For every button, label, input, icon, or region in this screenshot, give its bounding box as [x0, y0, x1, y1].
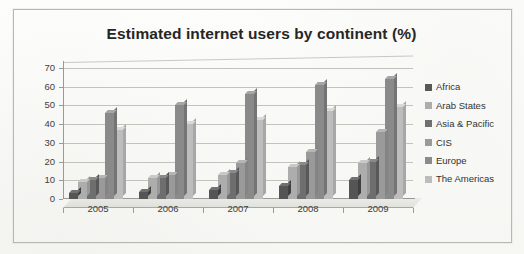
x-axis-tick-label: 2006	[148, 203, 188, 214]
y-axis-tick-label: 10	[31, 175, 55, 185]
y-axis-tick-label: 0	[31, 194, 55, 204]
scanned-chart-page: Estimated internet users by continent (%…	[0, 0, 524, 254]
x-axis-tick-mark	[203, 208, 204, 213]
bar-africa-2008	[279, 186, 288, 199]
bar-group-2008	[279, 68, 333, 199]
bar-side-face	[385, 126, 388, 196]
legend-label: The Americas	[436, 174, 494, 184]
legend-label: Africa	[436, 82, 460, 92]
bar-side-face	[306, 159, 309, 196]
bar-face	[139, 192, 148, 199]
y-axis-tick-label: 70	[31, 63, 55, 73]
legend-label: Asia & Pacific	[436, 119, 494, 129]
chart-legend: AfricaArab StatesAsia & PacificCISEurope…	[425, 78, 510, 188]
chart-title: Estimated internet users by continent (%…	[13, 25, 510, 43]
y-axis-tick-label: 50	[31, 100, 55, 110]
bar-side-face	[376, 156, 379, 196]
bar-side-face	[333, 105, 336, 196]
y-axis-line	[63, 61, 64, 199]
bar-face	[69, 193, 78, 199]
bar-side-face	[123, 124, 126, 196]
bar-side-face	[114, 107, 117, 196]
bar-group-2007	[209, 68, 263, 199]
bar-group-2005	[69, 68, 123, 199]
bar-side-face	[184, 99, 187, 196]
x-axis-tick-mark	[343, 208, 344, 213]
legend-item-europe[interactable]: Europe	[425, 152, 510, 170]
bar-side-face	[315, 146, 318, 196]
x-axis-tick-mark	[63, 208, 64, 213]
x-axis-tick-label: 2007	[218, 203, 258, 214]
legend-label: Arab States	[436, 101, 486, 111]
legend-label: CIS	[436, 138, 452, 148]
legend-swatch-icon	[425, 120, 432, 127]
y-axis-tick-label: 20	[31, 157, 55, 167]
bar-side-face	[193, 118, 196, 196]
bar-side-face	[367, 157, 370, 196]
legend-item-cis[interactable]: CIS	[425, 133, 510, 151]
x-axis-tick-mark	[133, 208, 134, 213]
bar-africa-2006	[139, 192, 148, 199]
legend-label: Europe	[436, 156, 467, 166]
legend-swatch-icon	[425, 157, 432, 164]
x-axis-tick-mark	[413, 208, 414, 213]
x-axis-tick-label: 2008	[288, 203, 328, 214]
legend-item-africa[interactable]: Africa	[425, 78, 510, 96]
bar-africa-2005	[69, 193, 78, 199]
legend-item-the-americas[interactable]: The Americas	[425, 170, 510, 188]
bar-africa-2009	[349, 180, 358, 199]
legend-item-arab-states[interactable]: Arab States	[425, 96, 510, 114]
bar-side-face	[254, 88, 257, 196]
y-axis-tick-label: 30	[31, 138, 55, 148]
legend-swatch-icon	[425, 176, 432, 183]
y-axis-tick-label: 60	[31, 82, 55, 92]
bar-africa-2007	[209, 190, 218, 199]
x-axis-tick-label: 2009	[358, 203, 398, 214]
legend-item-asia-pacific[interactable]: Asia & Pacific	[425, 115, 510, 133]
bar-side-face	[324, 79, 327, 196]
plot-area	[63, 68, 413, 199]
bar-face	[349, 180, 358, 199]
x-axis-tick-label: 2005	[78, 203, 118, 214]
legend-swatch-icon	[425, 139, 432, 146]
bar-group-2006	[139, 68, 193, 199]
x-axis-tick-mark	[273, 208, 274, 213]
bar-side-face	[403, 101, 406, 196]
bar-group-2009	[349, 68, 403, 199]
bar-side-face	[245, 157, 248, 196]
y-axis-tick-mark	[59, 199, 63, 200]
bar-face	[279, 186, 288, 199]
legend-swatch-icon	[425, 102, 432, 109]
legend-swatch-icon	[425, 84, 432, 91]
y-axis-tick-label: 40	[31, 119, 55, 129]
bar-face	[209, 190, 218, 199]
bar-side-face	[394, 73, 397, 196]
bar-side-face	[263, 114, 266, 196]
